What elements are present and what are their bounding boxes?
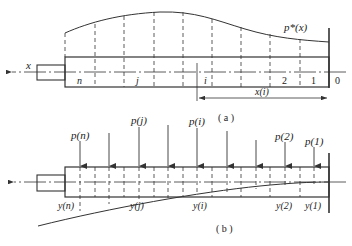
figure-b: p(n) p(j) p(i) p(2) p(1) y(n) y(j) y(i) …: [14, 114, 346, 235]
shaft-b: [37, 175, 65, 191]
deflection-label-y-i: y(i): [192, 200, 208, 212]
deflection-label-y-1: y(1): [304, 200, 322, 212]
axis-label-x: x: [25, 59, 31, 71]
shaft-a: [37, 65, 65, 80]
dimension-label-x-i: x(i): [254, 86, 270, 98]
load-label-p-j: p(j): [130, 114, 147, 127]
figure-a: x p*(x) n j i 2 1 0 x(i) ( a ): [12, 12, 346, 124]
segment-label-0: 0: [335, 75, 340, 86]
deflection-label-y-j: y(j): [129, 200, 145, 212]
load-label-p-1: p(1): [304, 135, 324, 148]
deflection-label-y-n: y(n): [57, 200, 75, 212]
segment-label-i: i: [204, 75, 207, 86]
segment-label-2: 2: [282, 75, 287, 86]
curve-label-pstar: p*(x): [283, 21, 308, 34]
caption-a: ( a ): [218, 112, 234, 124]
beam-load-diagram: x p*(x) n j i 2 1 0 x(i) ( a ): [0, 0, 352, 246]
deflection-label-y-2: y(2): [275, 200, 293, 212]
segment-label-1: 1: [311, 75, 316, 86]
caption-b: ( b ): [216, 223, 233, 235]
load-label-p-i: p(i): [188, 115, 205, 128]
segment-label-n: n: [77, 75, 82, 86]
load-label-p-n: p(n): [70, 129, 90, 142]
load-label-p-2: p(2): [274, 130, 294, 143]
section-lines-a: [95, 12, 300, 87]
segment-label-j: j: [134, 75, 139, 86]
